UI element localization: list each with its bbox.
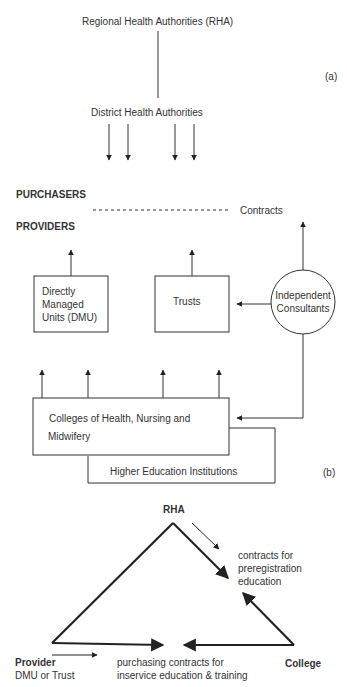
colleges-box — [33, 398, 229, 455]
dmu-line-2: Managed — [42, 298, 84, 311]
hei-label: Higher Education Institutions — [110, 465, 237, 478]
provider-label: Provider — [15, 656, 56, 669]
dmu-line-1: Directly — [42, 285, 75, 298]
purchasers-label: PURCHASERS — [16, 188, 86, 201]
prereg-line-2: preregistration — [238, 562, 302, 575]
consultants-line-1: Independent — [271, 289, 335, 302]
part-b-label: (b) — [323, 466, 335, 479]
trusts-label: Trusts — [173, 295, 200, 308]
contracts-label: Contracts — [240, 204, 283, 217]
colleges-line-1: Colleges of Health, Nursing and — [49, 412, 190, 425]
providers-label: PROVIDERS — [16, 220, 75, 233]
rha-title: Regional Health Authorities (RHA) — [82, 15, 233, 28]
inservice-line-1: purchasing contracts for — [117, 656, 224, 669]
district-down-arrows — [109, 124, 194, 160]
colleges-line-2: Midwifery — [48, 430, 90, 443]
diagram-canvas — [0, 0, 347, 687]
triangle-rha-label: RHA — [163, 503, 185, 516]
part-a-label: (a) — [325, 70, 337, 83]
prereg-line-3: education — [238, 575, 281, 588]
consultants-line-2: Consultants — [271, 302, 335, 315]
prereg-line-1: contracts for — [238, 549, 293, 562]
district-title: District Health Authorities — [91, 106, 203, 119]
dmu-line-3: Units (DMU) — [42, 311, 97, 324]
inservice-line-2: inservice education & training — [117, 669, 248, 682]
provider-subtitle: DMU or Trust — [15, 669, 74, 682]
college-label: College — [285, 657, 321, 670]
